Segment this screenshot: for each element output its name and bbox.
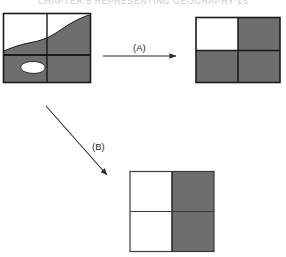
result-a-cell-0-1: [238, 18, 280, 51]
arrow-b-label: (B): [92, 141, 105, 152]
panel-result-a-raster: [196, 18, 280, 83]
result-b-cell-0-0: [130, 172, 172, 212]
result-b-cell-1-1: [172, 212, 214, 252]
result-a-cell-1-0: [196, 51, 238, 83]
result-b-cell-1-0: [130, 212, 172, 252]
arrow-a-label: (A): [133, 42, 146, 53]
result-a-cell-1-1: [238, 51, 280, 83]
figure-raster-conversion: [0, 0, 286, 257]
result-a-cell-0-0: [196, 18, 238, 51]
panel-result-b-raster: [130, 172, 214, 252]
figure-canvas: [0, 0, 286, 257]
result-b-cell-0-1: [172, 172, 214, 212]
panel-source-vector-map: [4, 14, 91, 83]
